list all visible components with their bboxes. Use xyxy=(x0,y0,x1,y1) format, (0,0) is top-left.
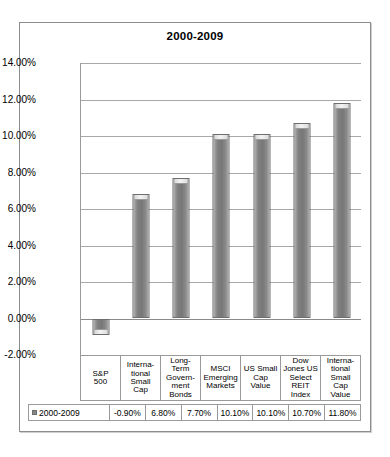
y-axis-tick-label: 8.00% xyxy=(0,168,36,178)
data-value-cell: 7.70% xyxy=(181,405,217,421)
category-label-cell: DowJones USSelectREITIndex xyxy=(281,356,321,401)
data-value-cell: 6.80% xyxy=(145,405,181,421)
category-label-cell: MSCIEmergingMarkets xyxy=(201,356,241,401)
bar-slot xyxy=(201,63,241,355)
category-label-cell: S&P500 xyxy=(81,356,121,401)
bar[interactable] xyxy=(253,134,270,318)
data-value-cell: 10.10% xyxy=(253,405,289,421)
bar-highlight xyxy=(335,104,348,109)
bar[interactable] xyxy=(93,319,110,335)
legend-series-cell: 2000-2009 xyxy=(29,405,110,421)
bar-highlight xyxy=(135,195,148,200)
legend-swatch-icon xyxy=(32,410,37,415)
bar-highlight xyxy=(215,135,228,140)
data-value-cell: 10.10% xyxy=(217,405,253,421)
y-axis-tick-label: 6.00% xyxy=(0,204,36,214)
y-axis-tick-label: 14.00% xyxy=(0,58,36,68)
y-axis-tick-label: 2.00% xyxy=(0,277,36,287)
bar-highlight xyxy=(95,329,108,334)
plot-area xyxy=(80,63,361,355)
chart-title: 2000-2009 xyxy=(20,30,370,42)
bar-highlight xyxy=(175,179,188,184)
bar-slot xyxy=(242,63,282,355)
bar-slot xyxy=(81,63,121,355)
category-label-cell: US SmallCapValue xyxy=(241,356,281,401)
y-axis-tick-label: -2.00% xyxy=(0,350,36,360)
legend-series-label: 2000-2009 xyxy=(39,408,80,418)
category-label-row: S&P500Interna-tionalSmallCapLong-TermGov… xyxy=(81,356,361,401)
bar-slot xyxy=(322,63,362,355)
y-axis-tick-label: 10.00% xyxy=(0,131,36,141)
bars-layer xyxy=(81,63,361,355)
bar-highlight xyxy=(255,135,268,140)
bar-slot xyxy=(282,63,322,355)
bar[interactable] xyxy=(133,194,150,318)
bar-slot xyxy=(161,63,201,355)
chart-frame: 2000-2009 14.00%12.00%10.00%8.00%6.00%4.… xyxy=(19,22,371,432)
bar[interactable] xyxy=(333,103,350,318)
data-value-cell: -0.90% xyxy=(110,405,146,421)
bar[interactable] xyxy=(173,178,190,319)
category-axis-table: S&P500Interna-tionalSmallCapLong-TermGov… xyxy=(80,355,361,401)
y-axis-tick-label: 12.00% xyxy=(0,95,36,105)
table-row: 2000-2009 -0.90%6.80%7.70%10.10%10.10%10… xyxy=(29,405,361,421)
bar-slot xyxy=(121,63,161,355)
bar[interactable] xyxy=(293,123,310,318)
bar-highlight xyxy=(295,124,308,129)
data-value-cell: 11.80% xyxy=(325,405,361,421)
category-label-cell: Long-TermGovern-mentBonds xyxy=(161,356,201,401)
data-value-table: 2000-2009 -0.90%6.80%7.70%10.10%10.10%10… xyxy=(28,404,361,421)
data-value-cell: 10.70% xyxy=(289,405,325,421)
category-label-cell: Interna-tionalSmallCap xyxy=(121,356,161,401)
bar[interactable] xyxy=(213,134,230,318)
category-label-cell: Interna-tionalSmallCapValue xyxy=(321,356,361,401)
y-axis-tick-label: 0.00% xyxy=(0,314,36,324)
y-axis-tick-label: 4.00% xyxy=(0,241,36,251)
